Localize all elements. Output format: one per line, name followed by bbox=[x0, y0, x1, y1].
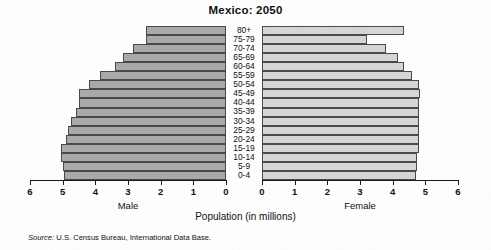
tick-ticks-male-5 bbox=[63, 181, 64, 185]
bar-female-70-74 bbox=[262, 44, 386, 53]
bar-male-20-24 bbox=[66, 135, 226, 144]
bar-female-65-69 bbox=[262, 53, 398, 62]
bar-male-0-4 bbox=[64, 171, 226, 180]
population-pyramid-chart: 80+75-7970-7465-6960-6455-5950-5445-4940… bbox=[0, 26, 491, 191]
bar-female-0-4 bbox=[262, 171, 416, 180]
tick-label-ticks-female-6: 6 bbox=[449, 186, 467, 197]
tick-ticks-male-1 bbox=[193, 181, 194, 185]
tick-ticks-male-3 bbox=[128, 181, 129, 185]
tick-ticks-female-3 bbox=[360, 181, 361, 185]
bar-male-55-59 bbox=[100, 71, 226, 80]
bar-female-80+ bbox=[262, 26, 404, 35]
bar-male-5-9 bbox=[63, 162, 226, 171]
male-bars-panel bbox=[30, 26, 226, 180]
tick-label-ticks-female-2: 2 bbox=[318, 186, 336, 197]
bar-male-15-19 bbox=[61, 144, 226, 153]
bar-female-75-79 bbox=[262, 35, 367, 44]
tick-ticks-female-1 bbox=[295, 181, 296, 185]
bar-female-10-14 bbox=[262, 153, 417, 162]
bar-male-35-39 bbox=[76, 108, 226, 117]
bar-male-30-34 bbox=[71, 117, 226, 126]
tick-label-ticks-male-5: 5 bbox=[54, 186, 72, 197]
tick-ticks-female-6 bbox=[458, 181, 459, 185]
bar-female-5-9 bbox=[262, 162, 417, 171]
tick-label-ticks-male-2: 2 bbox=[152, 186, 170, 197]
tick-ticks-male-4 bbox=[95, 181, 96, 185]
male-axis-label: Male bbox=[83, 200, 173, 211]
bar-male-25-29 bbox=[68, 126, 226, 135]
tick-label-ticks-female-3: 3 bbox=[351, 186, 369, 197]
bar-male-40-44 bbox=[79, 98, 226, 107]
tick-label-ticks-male-1: 1 bbox=[184, 186, 202, 197]
tick-label-ticks-female-1: 1 bbox=[286, 186, 304, 197]
tick-ticks-female-5 bbox=[425, 181, 426, 185]
bar-male-80+ bbox=[146, 26, 226, 35]
bar-male-70-74 bbox=[133, 44, 226, 53]
tick-ticks-male-0 bbox=[226, 181, 227, 185]
bar-female-20-24 bbox=[262, 135, 419, 144]
bar-male-65-69 bbox=[123, 53, 226, 62]
tick-ticks-female-2 bbox=[327, 181, 328, 185]
tick-ticks-female-0 bbox=[262, 181, 263, 185]
tick-label-ticks-female-5: 5 bbox=[416, 186, 434, 197]
bar-female-15-19 bbox=[262, 144, 419, 153]
bar-female-30-34 bbox=[262, 117, 419, 126]
tick-label-ticks-female-4: 4 bbox=[384, 186, 402, 197]
source-body: U.S. Census Bureau, International Data B… bbox=[54, 233, 211, 242]
bar-female-45-49 bbox=[262, 89, 420, 98]
source-note: Source: U.S. Census Bureau, Internationa… bbox=[28, 233, 211, 242]
x-axis-title: Population (in millions) bbox=[0, 211, 491, 222]
source-label: Source: bbox=[28, 233, 54, 242]
tick-label-ticks-male-6: 6 bbox=[21, 186, 39, 197]
bar-male-50-54 bbox=[89, 80, 226, 89]
tick-label-ticks-female-0: 0 bbox=[253, 186, 271, 197]
bar-female-55-59 bbox=[262, 71, 412, 80]
tick-ticks-male-6 bbox=[30, 181, 31, 185]
age-label-0-4: 0-4 bbox=[226, 171, 262, 180]
bar-male-10-14 bbox=[61, 153, 226, 162]
age-group-axis: 80+75-7970-7465-6960-6455-5950-5445-4940… bbox=[226, 26, 262, 180]
tick-label-ticks-male-0: 0 bbox=[217, 186, 235, 197]
female-bars-panel bbox=[262, 26, 458, 180]
bar-female-35-39 bbox=[262, 108, 419, 117]
page-title: Mexico: 2050 bbox=[0, 4, 491, 16]
bar-male-45-49 bbox=[79, 89, 226, 98]
tick-ticks-male-2 bbox=[161, 181, 162, 185]
tick-label-ticks-male-3: 3 bbox=[119, 186, 137, 197]
tick-ticks-female-4 bbox=[393, 181, 394, 185]
bar-female-60-64 bbox=[262, 62, 404, 71]
female-axis-label: Female bbox=[315, 200, 405, 211]
bar-male-60-64 bbox=[115, 62, 226, 71]
bar-female-50-54 bbox=[262, 80, 419, 89]
tick-label-ticks-male-4: 4 bbox=[86, 186, 104, 197]
bar-female-40-44 bbox=[262, 98, 419, 107]
bar-female-25-29 bbox=[262, 126, 419, 135]
bar-male-75-79 bbox=[146, 35, 226, 44]
